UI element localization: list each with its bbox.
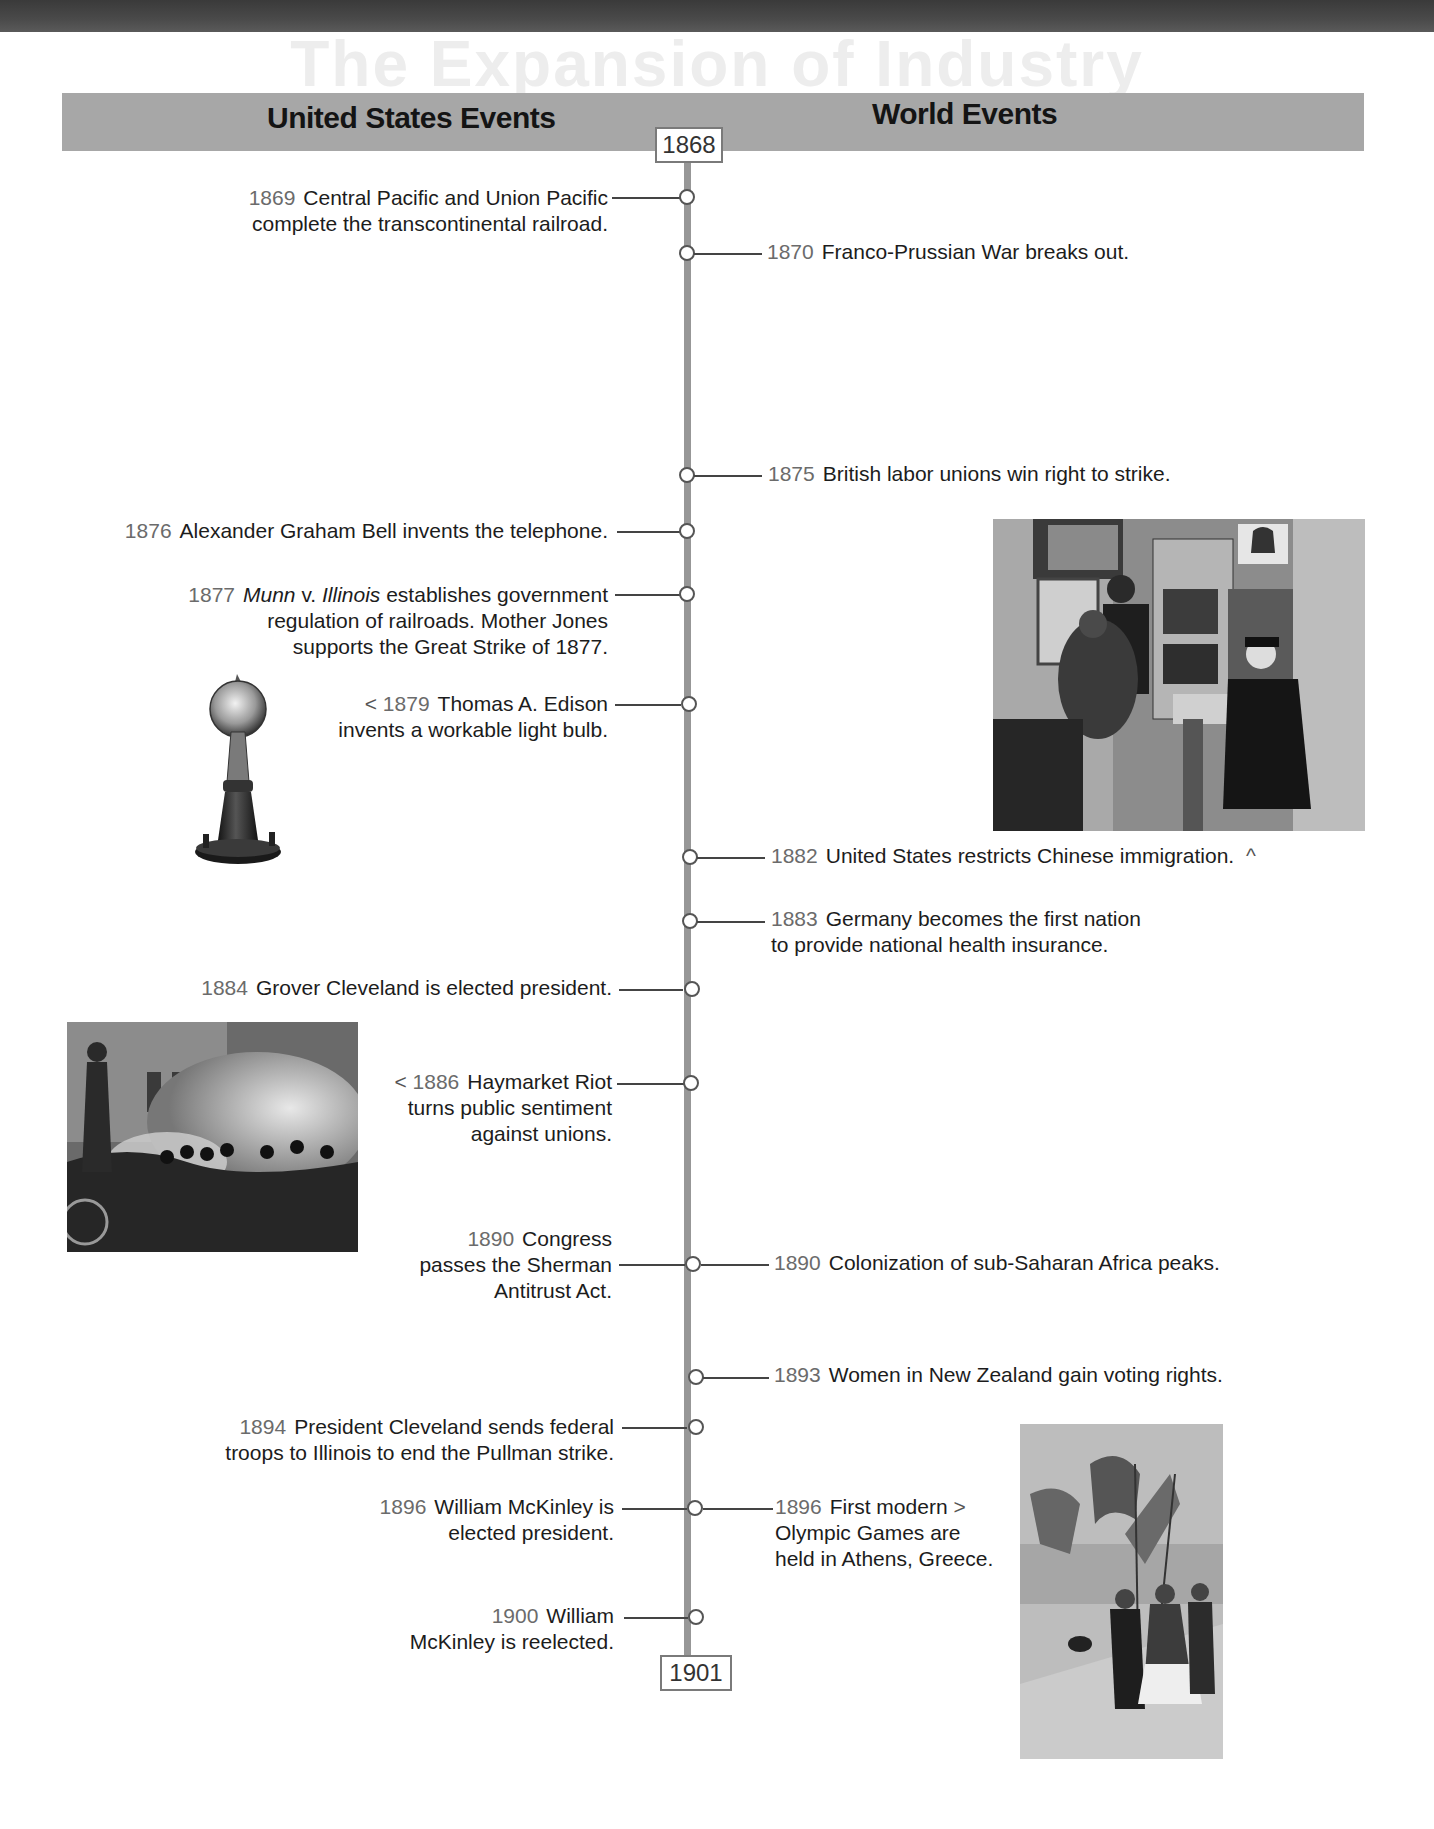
us-event-1877: 1877Munn v. Illinois establishes governm… xyxy=(148,582,608,660)
world-events-heading: World Events xyxy=(872,97,1057,131)
world-event-1890: 1890Colonization of sub-Saharan Africa p… xyxy=(774,1250,1294,1276)
timeline-node xyxy=(679,523,695,539)
connector-line xyxy=(624,1617,688,1619)
us-event-1876: 1876Alexander Graham Bell invents the te… xyxy=(48,518,608,544)
connector-line xyxy=(617,1083,685,1085)
start-year-box: 1868 xyxy=(655,127,723,163)
connector-line xyxy=(617,531,681,533)
timeline-node xyxy=(684,981,700,997)
telephone-exchange-photo xyxy=(993,519,1365,831)
timeline-node xyxy=(679,189,695,205)
right-arrow-icon: > xyxy=(953,1495,965,1518)
connector-line xyxy=(612,197,681,199)
end-year-box: 1901 xyxy=(660,1655,732,1691)
world-event-1883: 1883Germany becomes the first nation to … xyxy=(771,906,1271,958)
us-event-1879: < 1879Thomas A. Edison invents a workabl… xyxy=(248,691,608,743)
world-event-1870: 1870Franco-Prussian War breaks out. xyxy=(767,239,1267,265)
us-event-1894: 1894President Cleveland sends federal tr… xyxy=(94,1414,614,1466)
timeline-node xyxy=(681,696,697,712)
us-event-1884: 1884Grover Cleveland is elected presiden… xyxy=(132,975,612,1001)
timeline-node xyxy=(688,1369,704,1385)
connector-line xyxy=(622,1427,687,1429)
connector-line xyxy=(703,1377,769,1379)
olympic-games-image xyxy=(1020,1424,1223,1759)
ghost-page-title: The Expansion of Industry xyxy=(0,32,1434,96)
connector-line xyxy=(615,704,681,706)
world-event-1875: 1875British labor unions win right to st… xyxy=(768,461,1268,487)
connector-line xyxy=(701,1264,769,1266)
timeline-node xyxy=(688,1419,704,1435)
timeline-node xyxy=(683,1075,699,1091)
connector-line xyxy=(694,475,762,477)
up-arrow-icon: ^ xyxy=(1246,844,1256,867)
us-event-1869: 1869Central Pacific and Union Pacific co… xyxy=(188,185,608,237)
connector-line xyxy=(697,857,765,859)
connector-line xyxy=(703,1508,773,1510)
timeline-node xyxy=(679,245,695,261)
haymarket-riot-image xyxy=(67,1022,358,1252)
world-event-1882: 1882United States restricts Chinese immi… xyxy=(771,843,1331,869)
timeline-node xyxy=(682,849,698,865)
timeline-node xyxy=(685,1256,701,1272)
left-arrow-icon: < xyxy=(394,1070,406,1093)
timeline-node xyxy=(687,1500,703,1516)
timeline-node xyxy=(682,913,698,929)
us-event-1900: 1900William McKinley is reelected. xyxy=(314,1603,614,1655)
connector-line xyxy=(619,989,683,991)
us-events-heading: United States Events xyxy=(267,101,555,135)
left-arrow-icon: < xyxy=(365,692,377,715)
timeline-node xyxy=(688,1609,704,1625)
world-event-1893: 1893Women in New Zealand gain voting rig… xyxy=(774,1362,1294,1388)
connector-line xyxy=(615,594,681,596)
light-bulb-image xyxy=(195,672,290,877)
connector-line xyxy=(694,253,762,255)
timeline-node xyxy=(679,586,695,602)
top-dark-band xyxy=(0,0,1434,32)
us-event-1896: 1896William McKinley is elected presiden… xyxy=(314,1494,614,1546)
connector-line xyxy=(697,921,765,923)
connector-line xyxy=(622,1508,687,1510)
connector-line xyxy=(619,1264,685,1266)
timeline-node xyxy=(679,467,695,483)
light-bulb-icon xyxy=(195,672,290,877)
world-event-1896: 1896First modern > Olympic Games are hel… xyxy=(775,1494,1035,1572)
us-event-1890: 1890Congress passes the Sherman Antitrus… xyxy=(352,1226,612,1304)
